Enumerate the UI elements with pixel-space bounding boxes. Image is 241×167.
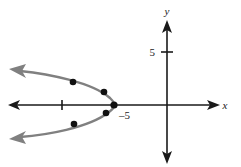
coordinate-plane: x 5 y –5 <box>0 0 241 167</box>
data-point <box>101 89 108 96</box>
data-point <box>71 121 78 128</box>
parabola-curve <box>20 71 115 137</box>
data-point <box>70 79 77 86</box>
data-point <box>103 110 110 117</box>
data-point <box>110 101 117 108</box>
y-axis-label: y <box>164 5 170 17</box>
y-axis-tick-label-5: 5 <box>150 46 156 58</box>
y-axis-group: 5 y <box>150 5 174 164</box>
x-axis-group: x <box>8 99 228 111</box>
x-axis-label: x <box>222 99 228 111</box>
vertex-annotation-label: –5 <box>118 109 131 121</box>
graph-figure: x 5 y –5 <box>0 0 241 167</box>
